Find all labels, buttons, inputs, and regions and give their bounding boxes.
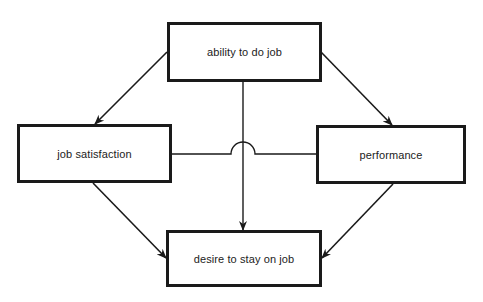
arrow-ability-to-satisfaction	[95, 52, 167, 124]
node-label: ability to do job	[207, 46, 282, 58]
node-performance: performance	[316, 125, 466, 184]
node-label: performance	[360, 149, 423, 161]
arrow-ability-to-performance	[321, 52, 392, 125]
node-ability-to-do-job: ability to do job	[167, 22, 322, 82]
arrow-satisfaction-to-desire	[93, 183, 166, 258]
node-desire-to-stay-on-job: desire to stay on job	[166, 230, 322, 287]
node-label: desire to stay on job	[194, 253, 295, 265]
node-label: job satisfaction	[57, 148, 131, 160]
node-job-satisfaction: job satisfaction	[17, 124, 172, 183]
arrow-performance-to-desire	[322, 184, 393, 258]
